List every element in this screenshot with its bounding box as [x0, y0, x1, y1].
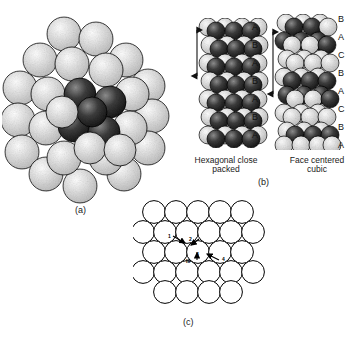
- panel-c-letter: (c): [183, 318, 194, 327]
- site-label-1: 1: [168, 233, 171, 239]
- fcc-layer-label: B: [338, 122, 344, 132]
- fcc-layer-label: A: [338, 86, 344, 96]
- hcp-caption: Hexagonal close packed: [184, 156, 268, 174]
- hcp-layer-label: A: [252, 22, 258, 32]
- fcc-layer-label: A: [338, 32, 344, 42]
- hcp-layer-label: A: [252, 94, 258, 104]
- panel-b-letter: (b): [258, 178, 269, 187]
- panel-a-sphere-cluster: [2, 8, 182, 208]
- hcp-stack-spheres: [196, 18, 274, 148]
- fcc-caption-line2: cubic: [277, 165, 357, 174]
- fcc-layer-label: C: [338, 104, 345, 114]
- fcc-layer-label: A: [338, 140, 344, 150]
- fcc-repeat-distance-arrow: [265, 26, 281, 102]
- hcp-layer-label: B: [252, 40, 258, 50]
- site-label-center: III: [186, 258, 190, 264]
- fcc-layer-label: B: [338, 68, 344, 78]
- figure-close-packed-structures: (a): [0, 0, 362, 343]
- fcc-layer-label: B: [338, 14, 344, 24]
- hcp-repeat-distance-arrow: [189, 24, 205, 84]
- hcp-layer-label: B: [252, 112, 258, 122]
- hcp-caption-line2: packed: [184, 165, 268, 174]
- fcc-caption: Face centered cubic: [277, 156, 357, 174]
- site-label-4: 4: [222, 256, 225, 262]
- hcp-layer-label: B: [252, 76, 258, 86]
- panel-a-letter: (a): [75, 206, 86, 215]
- hcp-layer-label: A: [252, 58, 258, 68]
- fcc-layer-label: C: [338, 50, 345, 60]
- hcp-layer-label: A: [252, 130, 258, 140]
- site-label-3: 3: [196, 251, 199, 257]
- panel-c-close-packed-layer: [133, 198, 265, 310]
- site-label-2: 2: [189, 236, 192, 242]
